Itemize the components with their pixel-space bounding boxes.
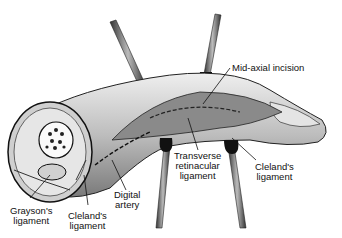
label-graysons-ligament: Grayson's ligament: [10, 206, 52, 226]
label-line: artery: [114, 200, 140, 210]
label-line: ligament: [174, 171, 221, 181]
tendon: [38, 164, 66, 180]
label-transverse-retinacular-ligament: Transverse retinacular ligament: [174, 151, 221, 181]
retractor-bottom-left: [156, 138, 172, 228]
bone: [39, 122, 73, 158]
label-mid-axial-incision: Mid-axial incision: [232, 63, 304, 73]
finger-illustration: [0, 0, 342, 238]
label-digital-artery: Digital artery: [114, 190, 140, 210]
retractor-bottom-right: [224, 140, 246, 228]
label-clelands-ligament-right: Cleland's ligament: [255, 162, 294, 182]
label-line: ligament: [10, 216, 52, 226]
label-line: ligament: [68, 221, 107, 231]
anatomy-figure: Mid-axial incision Transverse retinacula…: [0, 0, 342, 238]
label-clelands-ligament-left: Cleland's ligament: [68, 211, 107, 231]
label-line: ligament: [255, 172, 294, 182]
